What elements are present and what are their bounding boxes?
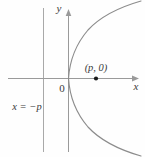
x-axis-label: x (133, 80, 139, 92)
focus-point-marker (94, 76, 98, 80)
parabola-svg: y x 0 (p, 0) x = −p (0, 0, 145, 157)
y-axis-label: y (56, 2, 62, 14)
origin-label: 0 (59, 82, 65, 94)
directrix-label: x = −p (11, 101, 41, 112)
parabola-figure: y x 0 (p, 0) x = −p (0, 0, 145, 157)
focus-point-label: (p, 0) (85, 62, 108, 74)
